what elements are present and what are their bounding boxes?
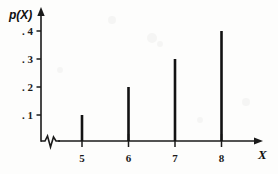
x-tick-label-6: 6 — [126, 152, 132, 164]
y-tick-label-0.3: . 3 — [22, 53, 34, 65]
y-tick-label-0.2: . 2 — [22, 81, 34, 93]
x-axis-arrowhead — [254, 137, 263, 144]
y-tick-label-0.4: . 4 — [22, 25, 34, 37]
y-tick-label-0.1: . 1 — [22, 109, 33, 121]
probability-mass-function-figure: . 4 . 3 . 2 . 1 5 6 7 8 p(X) X — [0, 0, 278, 174]
x-tick-label-8: 8 — [219, 152, 225, 164]
x-tick-label-5: 5 — [79, 152, 85, 164]
plot-canvas: . 4 . 3 . 2 . 1 5 6 7 8 p(X) X — [0, 0, 278, 174]
y-tick-labels: . 4 . 3 . 2 . 1 — [22, 25, 34, 121]
x-axis-title: X — [257, 147, 267, 162]
x-tick-label-7: 7 — [172, 152, 178, 164]
spike-bars — [82, 31, 222, 141]
y-axis-title: p(X) — [8, 8, 32, 22]
x-tick-labels: 5 6 7 8 — [79, 152, 225, 164]
x-axis-break-zigzag — [41, 136, 60, 147]
y-axis-arrowhead — [37, 7, 44, 16]
